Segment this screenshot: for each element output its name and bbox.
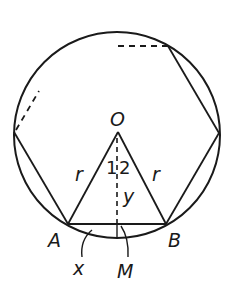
geometry-diagram: O A B M x r r 1 2 y bbox=[0, 0, 227, 291]
label-vertex-a: A bbox=[46, 229, 61, 251]
label-angle-2: 2 bbox=[119, 157, 130, 178]
label-radius-left: r bbox=[75, 163, 84, 185]
label-apothem-y: y bbox=[122, 185, 135, 207]
label-arc-x: x bbox=[72, 257, 85, 279]
label-radius-right: r bbox=[152, 163, 161, 185]
label-vertex-b: B bbox=[168, 229, 181, 251]
label-midpoint-m: M bbox=[117, 260, 133, 282]
m-leader bbox=[121, 226, 128, 257]
dashed-sides bbox=[16, 46, 168, 130]
label-angle-1: 1 bbox=[106, 157, 117, 178]
label-center-o: O bbox=[110, 108, 125, 130]
